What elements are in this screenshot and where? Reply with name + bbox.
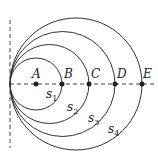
point-d-dot [113, 82, 118, 87]
curve-s1-label: s1 [46, 87, 57, 103]
point-b-label: B [63, 67, 73, 81]
point-c-label: C [91, 67, 100, 81]
point-a-dot [34, 82, 39, 87]
point-b-dot [60, 82, 65, 87]
point-d-label: D [116, 67, 127, 81]
point-c-dot [87, 82, 92, 87]
point-e-dot [140, 82, 145, 87]
tangent-circles-diagram: A B C D E s1 s2 s3 s4 [0, 0, 158, 159]
point-a-label: A [31, 67, 41, 81]
curve-s3-label: s3 [88, 111, 99, 127]
curve-s2-label: s2 [67, 100, 78, 116]
point-e-label: E [142, 67, 152, 81]
curve-s4-label: s4 [108, 122, 119, 138]
